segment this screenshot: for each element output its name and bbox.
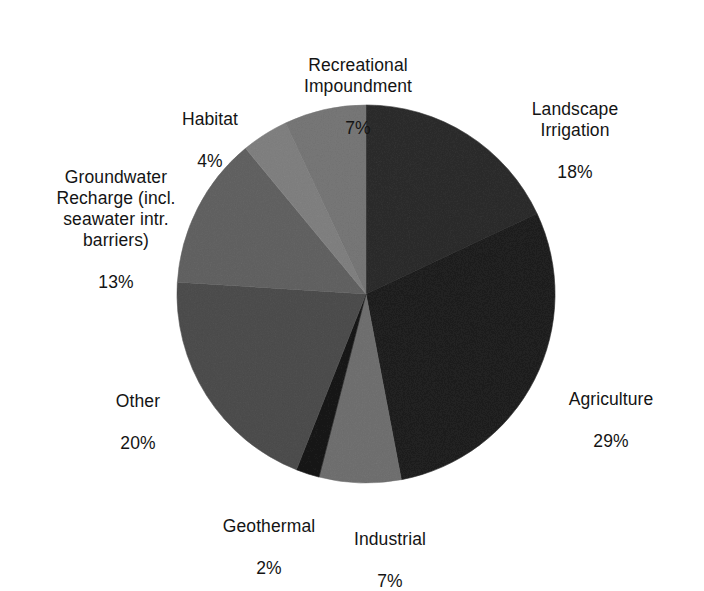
slice-label-value: 13% xyxy=(10,272,222,293)
slice-label-other: Other 20% xyxy=(68,370,208,475)
slice-label-landscape-irrigation: Landscape Irrigation 18% xyxy=(486,78,664,204)
slice-label-name: Groundwater Recharge (incl. seawater int… xyxy=(10,167,222,251)
slice-label-agriculture: Agriculture 29% xyxy=(528,368,694,473)
slice-label-value: 18% xyxy=(486,162,664,183)
slice-label-name: Other xyxy=(68,391,208,412)
slice-label-value: 7% xyxy=(320,571,460,591)
slice-label-value: 20% xyxy=(68,433,208,454)
slice-label-value: 29% xyxy=(528,431,694,452)
slice-label-name: Industrial xyxy=(320,529,460,550)
slice-label-groundwater-recharge: Groundwater Recharge (incl. seawater int… xyxy=(10,146,222,314)
slice-label-name: Habitat xyxy=(128,109,292,130)
slice-label-name: Agriculture xyxy=(528,389,694,410)
slice-label-industrial: Industrial 7% xyxy=(320,508,460,591)
slice-label-name: Landscape Irrigation xyxy=(486,99,664,141)
